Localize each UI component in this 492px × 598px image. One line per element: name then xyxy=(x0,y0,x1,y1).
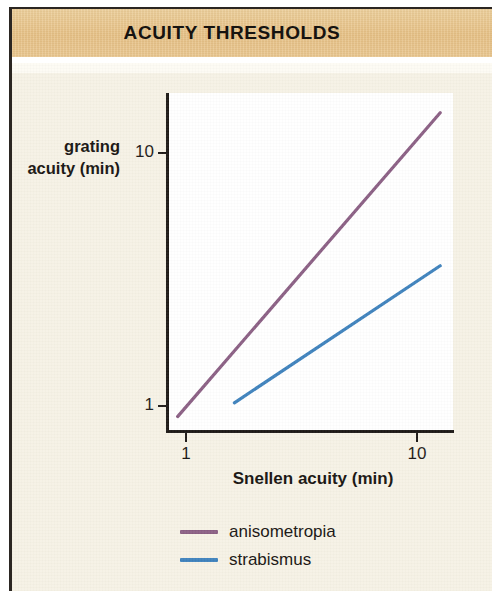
series-line-strabismus xyxy=(234,266,440,403)
series-line-anisometropia xyxy=(178,113,441,417)
y-axis-line xyxy=(166,93,169,433)
body-top-highlight xyxy=(12,63,492,73)
y-axis-tick-label-1: 1 xyxy=(122,395,154,415)
y-axis-tick-label-10: 10 xyxy=(122,142,154,162)
legend-swatch-strabismus xyxy=(180,558,218,562)
legend-label-anisometropia: anisometropia xyxy=(229,522,336,542)
y-axis-label: grating acuity (min) xyxy=(22,135,120,179)
legend-swatch-anisometropia xyxy=(180,530,218,534)
x-axis-tick-label-10: 10 xyxy=(401,444,433,464)
legend-label-strabismus: strabismus xyxy=(229,550,311,570)
y-axis-tick-10 xyxy=(158,152,167,154)
x-axis-label: Snellen acuity (min) xyxy=(172,469,454,489)
x-axis-tick-10 xyxy=(416,433,418,442)
plot-lines xyxy=(166,93,453,431)
x-axis-line xyxy=(166,430,454,433)
figure-panel: ACUITY THRESHOLDS 10 1 1 10 grating acui… xyxy=(0,0,492,598)
title-band: ACUITY THRESHOLDS xyxy=(12,9,492,57)
y-axis-tick-1 xyxy=(158,405,167,407)
chart-body: 10 1 1 10 grating acuity (min) Snellen a… xyxy=(12,63,492,591)
y-axis-label-line1: grating xyxy=(22,135,120,157)
plot-area xyxy=(166,93,453,431)
chart-title: ACUITY THRESHOLDS xyxy=(12,9,452,57)
x-axis-tick-1 xyxy=(185,433,187,442)
legend-item-strabismus: strabismus xyxy=(180,546,460,574)
legend-item-anisometropia: anisometropia xyxy=(180,518,460,546)
legend: anisometropia strabismus xyxy=(180,518,460,574)
x-axis-tick-label-1: 1 xyxy=(170,444,202,464)
y-axis-label-line2: acuity (min) xyxy=(22,157,120,179)
